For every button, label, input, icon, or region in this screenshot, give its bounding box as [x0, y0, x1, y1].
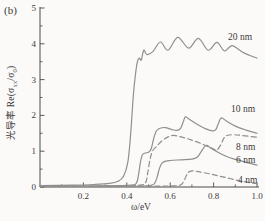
curve-8nm — [40, 135, 257, 186]
y-axis-label: 光导率 Re(σxx/σ0) — [3, 23, 19, 183]
series-label-8nm: 8 nm — [236, 142, 256, 152]
conductivity-chart: (b) 0.20.40.60.81.0012345 20 nm10 nm8 nm… — [0, 0, 265, 221]
y-axis-label-mid: /σ — [6, 72, 16, 80]
axis-ticks — [40, 8, 257, 187]
curve-4nm — [40, 171, 257, 186]
x-axis-label: ω/eV — [131, 202, 151, 212]
y-axis-label-pre: 光导率 Re(σ — [6, 88, 16, 141]
y-tick-label: 0 — [32, 182, 37, 192]
x-tick-label: 0.8 — [208, 191, 220, 201]
x-tick-label: 1.0 — [251, 191, 263, 201]
y-tick-label: 2 — [32, 110, 37, 120]
y-axis-label-sub-xx: xx — [11, 81, 18, 88]
series-label-4nm: 4 nm — [238, 175, 258, 185]
y-tick-label: 4 — [32, 39, 37, 49]
series-label-20nm: 20 nm — [228, 32, 253, 42]
y-axis-label-sub-0: 0 — [11, 69, 18, 72]
y-tick-label: 3 — [32, 75, 37, 85]
series-label-10nm: 10 nm — [231, 104, 256, 114]
curve-10nm — [40, 117, 257, 186]
y-tick-label: 1 — [32, 146, 37, 156]
panel-label: (b) — [4, 4, 17, 17]
curve-20nm — [40, 37, 257, 185]
x-tick-label: 0.6 — [165, 191, 177, 201]
x-tick-label: 0.2 — [78, 191, 89, 201]
series-labels: 20 nm10 nm8 nm6 nm4 nm — [228, 32, 258, 185]
figure-panel: (b) 0.20.40.60.81.0012345 20 nm10 nm8 nm… — [0, 0, 265, 221]
series-label-6nm: 6 nm — [236, 155, 256, 165]
axes — [40, 7, 259, 187]
y-tick-label: 5 — [32, 3, 37, 13]
axis-lines — [40, 7, 259, 187]
data-curves — [40, 37, 257, 186]
x-tick-label: 0.4 — [121, 191, 133, 201]
y-axis-label-post: ) — [6, 66, 16, 69]
